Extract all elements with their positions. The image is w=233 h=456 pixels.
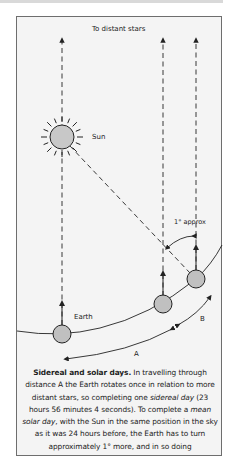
caption-title: Sidereal and solar days. <box>33 368 131 377</box>
label-earth: Earth <box>74 313 93 321</box>
earth-position-1-icon <box>53 325 71 343</box>
sun-line <box>70 146 190 273</box>
orbit-path <box>17 245 222 334</box>
distance-a-arc <box>66 329 172 359</box>
label-sun: Sun <box>92 133 105 141</box>
label-distance-b: B <box>200 315 205 323</box>
earth-position-2-icon <box>154 295 172 313</box>
earth-position-3-icon <box>187 270 205 288</box>
angle-arc <box>167 236 194 248</box>
label-angle: 1° approx <box>174 218 206 226</box>
label-to-distant-stars: To distant stars <box>92 25 145 33</box>
distance-b-arc <box>178 297 210 325</box>
caption-text-3: , with the Sun in the same position in t… <box>35 417 218 451</box>
label-distance-a: A <box>134 350 139 358</box>
caption-term-sidereal-day: sidereal day <box>150 393 194 402</box>
figure-caption: Sidereal and solar days. In travelling t… <box>22 367 218 453</box>
